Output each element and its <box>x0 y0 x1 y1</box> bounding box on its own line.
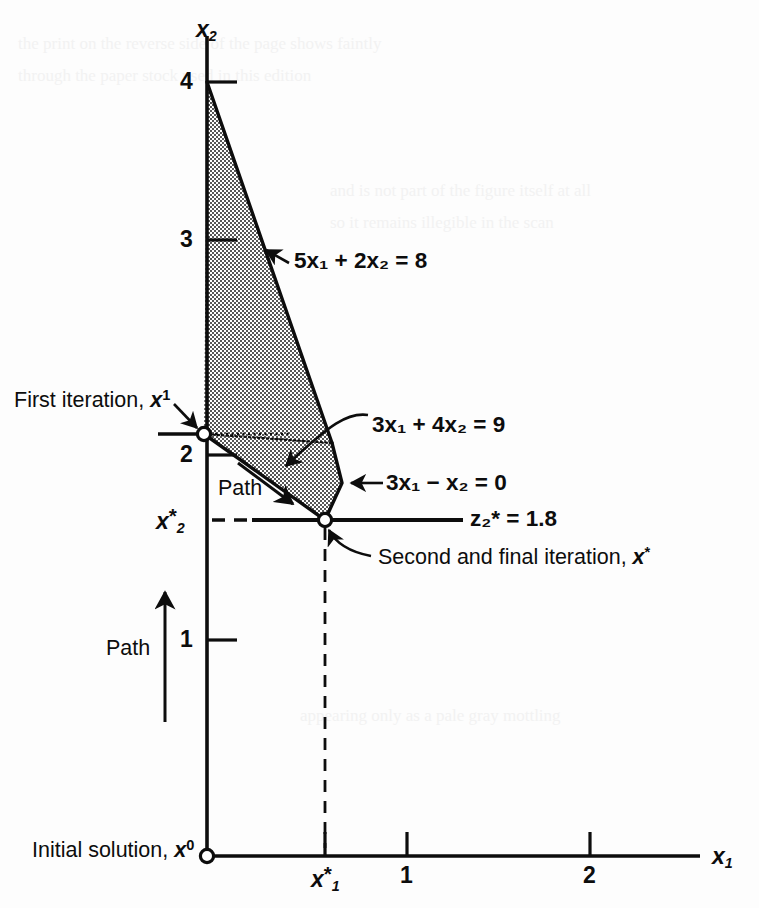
x-tick-label-2: 2 <box>583 864 596 887</box>
first-iteration-superscript: 1 <box>162 387 170 403</box>
x-opt-symbol: x <box>311 866 324 892</box>
y-tick-label-3: 3 <box>180 228 193 251</box>
constraint-label-3x1-x2: 3x₁ − x₂ = 0 <box>386 472 507 495</box>
annotation-second-iteration: Second and final iteration, x* <box>378 545 650 568</box>
annotation-first-iteration: First iteration, x1 <box>14 388 170 411</box>
y-opt-sub: 2 <box>177 520 185 536</box>
linear-programming-figure: the print on the reverse side of the pag… <box>0 0 759 908</box>
y-axis-label-sub: 2 <box>209 28 217 44</box>
y-axis-label-text: x <box>196 16 209 42</box>
leader-first-iteration <box>174 404 197 428</box>
first-iteration-text: First iteration, <box>14 388 150 412</box>
constraint-label-5x1-2x2: 5x₁ + 2x₂ = 8 <box>294 250 427 273</box>
leader-second-iteration <box>329 530 371 556</box>
annotation-initial-solution: Initial solution, x0 <box>32 838 194 861</box>
y-opt-star: * <box>169 504 177 527</box>
second-iteration-text: Second and final iteration, <box>378 545 633 569</box>
initial-solution-symbol: x <box>174 838 186 862</box>
y-opt-symbol: x <box>156 508 169 534</box>
y-axis-label: x2 <box>196 18 217 43</box>
initial-solution-text: Initial solution, <box>32 838 174 862</box>
x-tick-label-1: 1 <box>400 864 413 887</box>
x-opt-star: * <box>324 862 332 885</box>
x-tick-label-x1-opt: x*1 <box>311 864 340 893</box>
second-iteration-superscript: * <box>645 544 651 560</box>
plot-canvas <box>0 0 759 908</box>
x-axis-label-text: x <box>712 843 725 869</box>
vertex-optimal-solution <box>318 513 331 526</box>
y-tick-label-1: 1 <box>180 628 193 651</box>
y-tick-label-4: 4 <box>180 70 193 93</box>
x-axis-label: x1 <box>712 845 733 870</box>
y-tick-label-2: 2 <box>180 443 193 466</box>
vertex-first-iteration <box>197 427 210 440</box>
first-iteration-symbol: x <box>150 388 162 412</box>
second-iteration-symbol: x <box>633 545 645 569</box>
initial-solution-superscript: 0 <box>186 837 194 853</box>
objective-line-label: z₂* = 1.8 <box>470 508 557 531</box>
path-label-vertical: Path <box>106 638 150 660</box>
constraint-label-3x1-4x2: 3x₁ + 4x₂ = 9 <box>372 414 505 437</box>
y-tick-label-x2-opt: x*2 <box>156 506 185 535</box>
vertex-initial-solution <box>200 849 213 862</box>
x-axis-label-sub: 1 <box>725 855 733 871</box>
path-label-diagonal: Path <box>218 478 262 500</box>
x-opt-sub: 1 <box>332 878 340 894</box>
